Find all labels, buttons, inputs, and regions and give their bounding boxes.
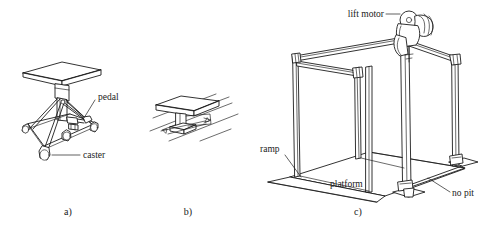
label-caster: caster <box>83 150 106 160</box>
label-no-pit: no pit <box>452 188 474 198</box>
label-lift-motor: lift motor <box>348 9 385 19</box>
panel-b-drawing <box>150 94 238 141</box>
panel-c-post-center <box>366 66 372 192</box>
panel-c-lift-motor <box>394 11 433 62</box>
label-platform: platform <box>330 179 363 189</box>
label-ramp: ramp <box>260 144 280 154</box>
panel-c-drawing <box>268 11 478 202</box>
panel-c-post-left-rear <box>293 55 300 177</box>
label-pedal: pedal <box>98 92 119 102</box>
caption-c: c) <box>354 206 362 218</box>
panel-a-drawing <box>22 62 101 160</box>
panel-c-no-pit-leader <box>428 178 450 192</box>
figure-container: pedal caster lift motor ramp platform no… <box>0 0 491 235</box>
caption-b: b) <box>184 206 192 218</box>
panel-c-post-inner <box>355 69 361 159</box>
caption-a: a) <box>64 206 72 218</box>
panel-a-pedal-leader <box>84 100 95 118</box>
figure-drawing: pedal caster lift motor ramp platform no… <box>0 0 491 235</box>
panel-c-beam-rear-left <box>295 37 405 61</box>
panel-c-beam-front <box>297 61 357 76</box>
panel-a-tabletop <box>23 62 101 86</box>
panel-c-post-right-rear <box>452 56 459 166</box>
